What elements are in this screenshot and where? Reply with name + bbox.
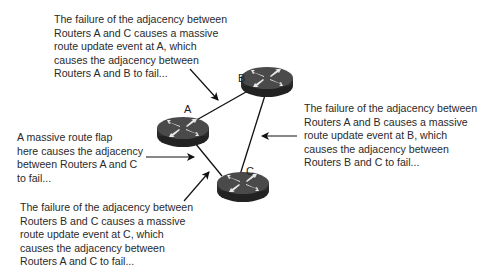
arrow-bottom [184, 172, 209, 201]
annotation-left: A massive route flap here causes the adj… [17, 131, 143, 185]
annotation-right: The failure of the adjacency between Rou… [304, 102, 477, 170]
link-a-c [195, 143, 222, 176]
router-b-label: B [238, 72, 245, 84]
annotation-bottom: The failure of the adjacency between Rou… [20, 201, 193, 269]
link-a-b [193, 88, 253, 122]
router-a-label: A [184, 103, 191, 115]
router-c-label: C [246, 165, 254, 177]
router-a-icon [157, 117, 209, 147]
router-c-icon [217, 172, 269, 202]
router-b-icon [241, 67, 293, 97]
annotation-top: The failure of the adjacency between Rou… [54, 13, 227, 81]
